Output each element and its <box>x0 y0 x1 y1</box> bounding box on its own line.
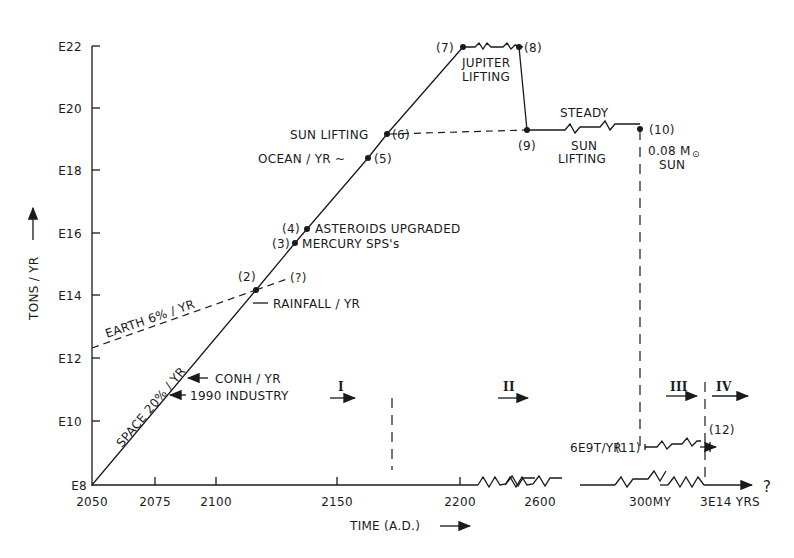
label-mercury: MERCURY SPS's <box>302 237 399 251</box>
y-tick-label: E12 <box>58 352 82 366</box>
label-point-8: (8) <box>524 41 542 55</box>
label-point-4: (4) <box>282 222 300 236</box>
x-tick-label: 2100 <box>200 495 232 509</box>
y-tick-label: E10 <box>58 415 82 429</box>
label-phase-3: III <box>670 380 688 394</box>
y-tick-label: E16 <box>58 227 82 241</box>
label-point-7: (7) <box>436 41 454 55</box>
label-point-11: (11) <box>615 441 641 455</box>
label-rainfall: RAINFALL / YR <box>273 297 360 311</box>
point-8 <box>516 44 522 50</box>
label-sun: SUN <box>571 139 597 153</box>
y-tick-label: E14 <box>58 289 82 303</box>
x-axis-end-label: ? <box>763 478 771 496</box>
label-mass: 0.08 M <box>648 144 691 158</box>
x-axis: 2050 2075 2100 2150 2200 2600 300MY 3E14… <box>76 471 771 533</box>
point-6 <box>384 131 390 137</box>
label-point-12: (12) <box>709 423 735 437</box>
point-2 <box>253 287 259 293</box>
label-point-10: (10) <box>649 123 675 137</box>
x-tick-label: 300MY <box>629 495 671 509</box>
label-point-5: (5) <box>374 152 392 166</box>
label-ocean: OCEAN / YR ~ <box>258 152 345 166</box>
y-tick-label: E20 <box>58 102 82 116</box>
x-tick-label: 2200 <box>444 495 476 509</box>
chart-svg: E22 E20 E18 E16 E14 E12 E10 E8 TONS / YR… <box>0 0 794 558</box>
label-phase-2: II <box>503 380 515 394</box>
point-10 <box>637 126 643 132</box>
x-tick-label: 2600 <box>524 495 556 509</box>
label-earth: EARTH 6% / YR <box>103 297 196 341</box>
label-conh: CONH / YR <box>215 372 281 386</box>
label-question: (?) <box>290 271 307 285</box>
label-steady: STEADY <box>560 106 609 120</box>
label-sun-lifting-2: LIFTING <box>558 152 606 166</box>
point-5 <box>365 155 371 161</box>
x-axis-label: TIME (A.D.) <box>349 519 420 533</box>
label-asteroids: ASTEROIDS UPGRADED <box>315 222 461 236</box>
y-axis-label: TONS / YR <box>27 257 41 321</box>
point-7 <box>460 44 466 50</box>
y-axis-title: TONS / YR <box>27 257 41 321</box>
label-point-9: (9) <box>518 139 536 153</box>
annotations: (2) (?) RAINFALL / YR (3) MERCURY SPS's … <box>103 41 748 455</box>
y-tick-label: E18 <box>58 164 82 178</box>
point-4 <box>304 226 310 232</box>
label-point-3: (3) <box>272 237 290 251</box>
label-phase-1: I <box>338 380 344 394</box>
x-tick-label: 3E14 YRS <box>700 495 760 509</box>
label-jupiter: JUPITER <box>461 56 510 70</box>
label-industry: 1990 INDUSTRY <box>190 389 289 403</box>
point-3 <box>292 240 298 246</box>
label-jupiter-lifting: LIFTING <box>462 70 510 84</box>
label-space: SPACE 20% / YR <box>114 364 189 450</box>
chart-container: E22 E20 E18 E16 E14 E12 E10 E8 TONS / YR… <box>0 0 794 558</box>
y-axis: E22 E20 E18 E16 E14 E12 E10 E8 TONS / YR <box>27 40 100 493</box>
label-sun-final: SUN <box>659 158 685 172</box>
label-point-6: (6) <box>392 128 410 142</box>
sun-symbol-icon: ⊙ <box>692 149 700 159</box>
x-tick-label: 2150 <box>321 495 353 509</box>
y-tick-label: E8 <box>71 479 87 493</box>
label-sun-lifting: SUN LIFTING <box>290 128 369 142</box>
y-tick-label: E22 <box>58 40 82 54</box>
space-label-group: SPACE 20% / YR <box>114 364 189 450</box>
earth-label-group: EARTH 6% / YR <box>103 297 196 341</box>
x-tick-label: 2050 <box>76 495 108 509</box>
label-phase-4: IV <box>716 380 732 394</box>
x-tick-label: 2075 <box>139 495 171 509</box>
space-series <box>92 43 716 485</box>
label-point-2: (2) <box>238 270 256 284</box>
